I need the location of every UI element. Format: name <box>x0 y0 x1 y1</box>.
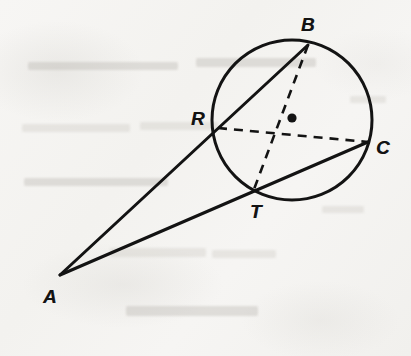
diagram-canvas <box>0 0 411 356</box>
secant-lines-group <box>60 45 368 275</box>
circle-center-dot <box>287 113 296 122</box>
secant-A-R-B <box>60 45 308 275</box>
chord-R-C <box>218 128 368 142</box>
secant-A-T-C <box>60 142 368 275</box>
geometry-figure: ABRCT <box>0 0 411 356</box>
